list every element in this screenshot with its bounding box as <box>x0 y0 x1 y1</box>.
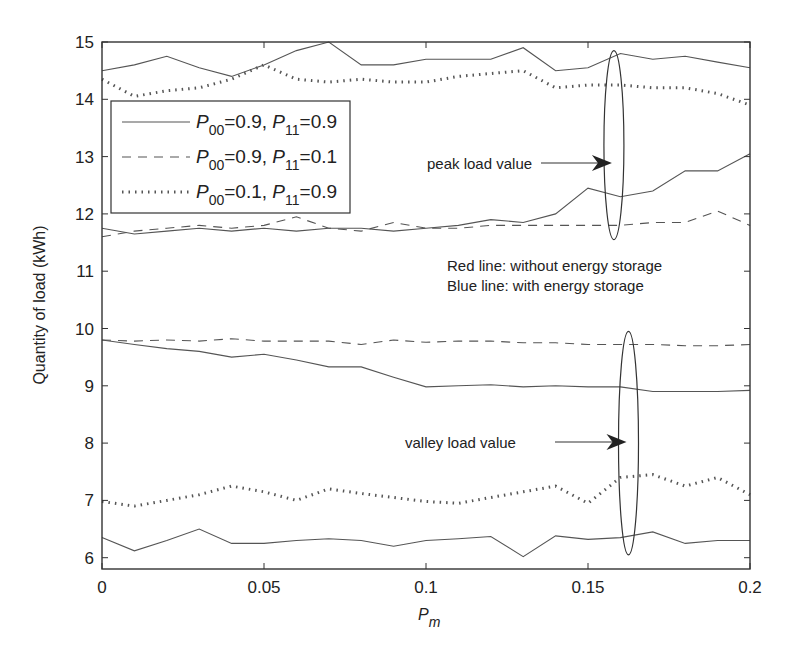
annotation-valley: valley load value <box>405 434 516 451</box>
x-tick-label: 0.1 <box>414 578 438 597</box>
annotation-arrows <box>541 51 639 555</box>
y-tick-label: 10 <box>75 320 94 339</box>
y-tick-label: 14 <box>75 90 94 109</box>
series-line-solid <box>102 529 750 557</box>
y-tick-label: 6 <box>85 549 94 568</box>
series-line-dashed <box>102 339 750 346</box>
y-tick-label: 13 <box>75 148 94 167</box>
y-tick-label: 9 <box>85 377 94 396</box>
load-chart: 678910111213141500.050.10.150.2 P00=0.9,… <box>0 0 800 660</box>
y-tick-label: 7 <box>85 491 94 510</box>
x-tick-label: 0.15 <box>571 578 604 597</box>
x-tick-label: 0.05 <box>247 578 280 597</box>
x-tick-label: 0.2 <box>738 578 762 597</box>
annotation-red-line: Red line: without energy storage <box>447 257 662 274</box>
x-axis-title: Pm <box>418 606 441 630</box>
x-tick-label: 0 <box>97 578 106 597</box>
y-axis-title: Quantity of load (kWh) <box>31 225 48 384</box>
y-tick-label: 11 <box>76 262 94 281</box>
series-line-dotted <box>102 65 750 105</box>
series-line-solid <box>102 340 750 392</box>
y-tick-label: 15 <box>75 33 94 52</box>
series-line-dotted <box>102 475 750 507</box>
series-line-dashed <box>102 211 750 237</box>
peak-ellipse <box>604 51 624 240</box>
annotation-blue-line: Blue line: with energy storage <box>447 277 644 294</box>
legend: P00=0.9, P11=0.9P00=0.9, P11=0.1P00=0.1,… <box>111 101 350 213</box>
annotation-peak: peak load value <box>427 155 532 172</box>
y-tick-label: 12 <box>75 205 94 224</box>
y-tick-label: 8 <box>85 434 94 453</box>
